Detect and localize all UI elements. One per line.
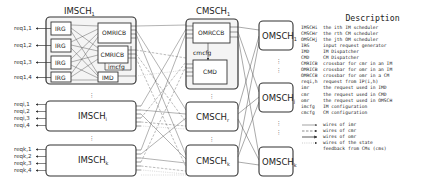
svg-text:reqk,1: reqk,1 xyxy=(14,146,31,153)
svg-text:reqk,2: reqk,2 xyxy=(14,153,31,160)
svg-text:OMRCCB: OMRCCB xyxy=(198,29,224,36)
cmd-block: CMD xyxy=(193,60,227,84)
legend-row: cmcfgCM configuration xyxy=(301,110,424,116)
svg-text:CMSCHk: CMSCHk xyxy=(196,156,230,167)
svg-text:IMD: IMD xyxy=(102,74,114,81)
irg-block: IRG xyxy=(51,56,71,69)
svg-text:reqi,3: reqi,3 xyxy=(14,115,30,122)
cmcfg-label: cmcfg xyxy=(193,49,212,57)
svg-text:IRG: IRG xyxy=(55,59,66,66)
legend-definitions: IMSCHithe ith IM scheduler CMSCHrthe rth… xyxy=(301,25,424,116)
legend-wire-styles: wires of imr wires of cmr wires of omr w… xyxy=(301,122,424,152)
cmsch-r-block: CMSCHr xyxy=(186,102,238,131)
imsch-1-title: IMSCH1 xyxy=(64,6,95,17)
legend-title: Description xyxy=(301,13,424,23)
svg-text:req1,1: req1,1 xyxy=(14,25,32,32)
ellipsis-omsch-jb: ⋮ xyxy=(276,129,282,135)
svg-text:CMSCH1: CMSCH1 xyxy=(196,6,230,17)
svg-text:CMD: CMD xyxy=(203,68,217,75)
imsch-i-block: IMSCHi xyxy=(46,101,141,131)
svg-text:reqi,4: reqi,4 xyxy=(14,122,30,129)
imsch-1-group: IMSCH1 IRG IRG IRG IRG OMRICB CMRICB xyxy=(46,6,136,84)
svg-text:IRG: IRG xyxy=(55,25,66,32)
svg-text:reqk,3: reqk,3 xyxy=(14,160,32,167)
imsch-k-block: IMSCHk xyxy=(46,145,141,176)
ellipsis-imsch-1: ⋮ xyxy=(89,92,95,98)
svg-text:reqk,4: reqk,4 xyxy=(14,167,32,174)
ellipsis-cmsch-1: ⋮ xyxy=(209,93,215,99)
svg-text:req1,4: req1,4 xyxy=(14,74,32,81)
imsch-i-requests: reqi,1 reqi,2 reqi,3 reqi,4 xyxy=(14,101,46,129)
omsch-j-block: OMSCHj xyxy=(259,83,295,112)
cmricb-block: CMRICB xyxy=(98,46,128,63)
irg-block: IRG xyxy=(51,39,71,52)
svg-text:reqi,1: reqi,1 xyxy=(14,101,30,108)
irg-block: IRG xyxy=(51,22,71,35)
svg-text:IRG: IRG xyxy=(55,74,66,81)
imsch-k-requests: reqk,1 reqk,2 reqk,3 reqk,4 xyxy=(14,146,46,174)
imd-block: IMD xyxy=(98,72,118,82)
svg-text:reqi,2: reqi,2 xyxy=(14,108,30,115)
imcfg-label: imcfg xyxy=(108,63,125,71)
svg-text:IMSCHk: IMSCHk xyxy=(78,155,109,166)
cmsch-1-group: CMSCH1 OMRCCB cmcfg CMD xyxy=(186,6,238,89)
omsch-1-block: OMSCH1 xyxy=(259,21,297,50)
legend: Description IMSCHithe ith IM scheduler C… xyxy=(301,13,424,152)
legend-wire-row: feedback from CMs (cms) xyxy=(301,146,424,152)
svg-text:OMSCHk: OMSCHk xyxy=(262,157,297,168)
svg-text:CMSCHr: CMSCHr xyxy=(196,112,230,123)
ellipsis-cmsch-r: ⋮ xyxy=(209,136,215,142)
ellipsis-imsch-i: ⋮ xyxy=(89,135,95,141)
omricb-block: OMRICB xyxy=(98,23,131,43)
svg-text:IMSCHi: IMSCHi xyxy=(78,111,107,122)
omsch-k-block: OMSCHk xyxy=(259,147,297,176)
omrccb-block: OMRCCB xyxy=(193,23,230,43)
irg-block: IRG xyxy=(51,72,71,82)
ellipsis-omsch-1: ⋮ xyxy=(276,58,282,64)
cm-om-wires xyxy=(238,27,259,165)
svg-text:OMRICB: OMRICB xyxy=(102,29,126,36)
im-cm-wires xyxy=(136,25,186,175)
ellipsis-omsch-j: ⋮ xyxy=(276,120,282,126)
svg-text:IRG: IRG xyxy=(55,42,66,49)
svg-text:req1,3: req1,3 xyxy=(14,59,32,66)
svg-text:CMRICB: CMRICB xyxy=(101,51,125,58)
svg-text:req1,2: req1,2 xyxy=(14,42,32,49)
svg-text:OMSCH1: OMSCH1 xyxy=(262,31,297,42)
ellipsis-omsch-1b: ⋮ xyxy=(276,67,282,73)
cmsch-k-block: CMSCHk xyxy=(186,145,238,176)
